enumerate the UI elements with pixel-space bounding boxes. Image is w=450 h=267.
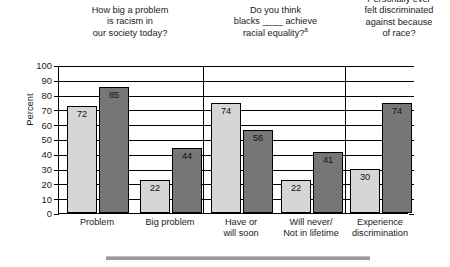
- bar-value-label: 74: [392, 107, 402, 116]
- y-tick-left-70: [54, 110, 59, 111]
- y-tick-label-50: 50: [28, 135, 52, 144]
- y-tick-label-20: 20: [28, 180, 52, 189]
- y-tick-label-60: 60: [28, 121, 52, 130]
- y-tick-left-30: [54, 170, 59, 171]
- bar-light-2: 22: [140, 180, 170, 213]
- y-tick-label-10: 10: [28, 195, 52, 204]
- bottom-rule: [106, 256, 370, 260]
- y-tick-left-10: [54, 199, 59, 200]
- y-tick-label-0: 0: [28, 209, 52, 218]
- y-tick-left-20: [54, 184, 59, 185]
- panel-question-3: Personally ever felt discriminated again…: [349, 0, 449, 39]
- bar-value-label: 30: [360, 173, 370, 182]
- y-tick-label-80: 80: [28, 91, 52, 100]
- y-tick-left-40: [54, 155, 59, 156]
- y-tick-left-90: [54, 81, 59, 82]
- bar-value-label: 41: [323, 156, 333, 165]
- gridline-100: [59, 66, 409, 67]
- bar-value-label: 72: [77, 110, 87, 119]
- panel-question-2-footnote: a: [304, 26, 308, 33]
- y-tick-left-80: [54, 96, 59, 97]
- y-tick-label-70: 70: [28, 106, 52, 115]
- bar-light-5: 30: [350, 169, 380, 213]
- bar-value-label: 22: [291, 184, 301, 193]
- y-tick-right-100: [409, 66, 414, 67]
- bar-value-label: 74: [221, 107, 231, 116]
- bar-chart: How big a problem is racism in our socie…: [0, 0, 450, 267]
- bar-dark-5: 74: [382, 103, 412, 213]
- panel-separator-4: [345, 66, 346, 214]
- y-tick-label-90: 90: [28, 76, 52, 85]
- panel-question-1: How big a problem is racism in our socie…: [58, 5, 202, 39]
- bar-value-label: 22: [150, 184, 160, 193]
- bar-light-1: 72: [67, 106, 97, 213]
- y-tick-left-0: [54, 214, 59, 215]
- y-tick-right-80: [409, 96, 414, 97]
- panel-separator-2: [203, 66, 204, 214]
- y-axis-tick-labels: 1009080706050403020100: [26, 66, 52, 214]
- panel-question-2: Do you think blacks ____ achieve racial …: [203, 5, 348, 39]
- y-tick-right-0: [409, 214, 414, 215]
- y-tick-label-100: 100: [28, 61, 52, 70]
- category-label-5: Experience discrimination: [335, 217, 425, 239]
- y-tick-left-60: [54, 125, 59, 126]
- bar-value-label: 44: [182, 152, 192, 161]
- y-tick-right-90: [409, 81, 414, 82]
- bar-value-label: 85: [109, 91, 119, 100]
- y-tick-label-30: 30: [28, 165, 52, 174]
- bar-dark-2: 44: [172, 148, 202, 213]
- y-tick-label-40: 40: [28, 150, 52, 159]
- y-tick-left-50: [54, 140, 59, 141]
- bar-light-4: 22: [281, 180, 311, 213]
- bar-dark-1: 85: [99, 87, 129, 213]
- gridline-90: [59, 81, 409, 82]
- plot-area: 72852244745622413074: [58, 66, 408, 214]
- bar-dark-3: 56: [243, 130, 273, 213]
- y-tick-left-100: [54, 66, 59, 67]
- bar-light-3: 74: [211, 103, 241, 213]
- bar-dark-4: 41: [313, 152, 343, 213]
- bar-value-label: 56: [253, 134, 263, 143]
